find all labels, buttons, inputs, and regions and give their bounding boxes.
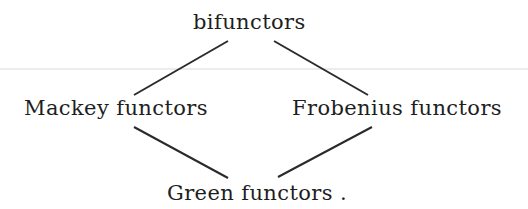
edge-mackey-green — [134, 127, 228, 178]
node-bifunctors: bifunctors — [193, 12, 306, 33]
node-green-functors: Green functors . — [167, 183, 347, 204]
node-frobenius-functors: Frobenius functors — [292, 98, 502, 119]
diagram-canvas: bifunctors Mackey functors Frobenius fun… — [0, 0, 528, 209]
node-mackey-functors: Mackey functors — [24, 98, 208, 119]
edge-bifunctors-mackey — [134, 41, 228, 95]
edge-frobenius-green — [278, 127, 372, 177]
edge-bifunctors-frobenius — [274, 41, 368, 95]
